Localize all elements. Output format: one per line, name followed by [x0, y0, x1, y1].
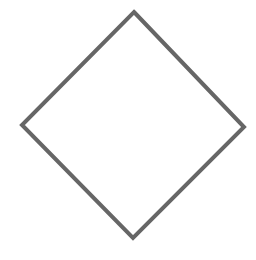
diamond-shape: [22, 12, 244, 238]
diagram-canvas: [0, 0, 256, 260]
diamond-shape-svg: [0, 0, 256, 260]
